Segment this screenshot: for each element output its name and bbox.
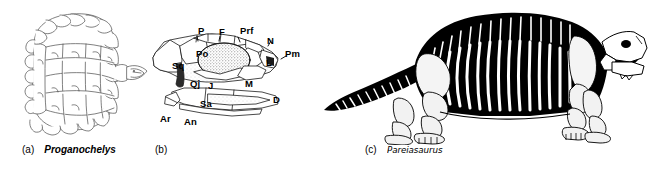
skull-label-sq: Sq (172, 61, 184, 71)
skull-label-ar: Ar (160, 114, 171, 124)
caption-a-tag: (a) (22, 144, 34, 155)
panel-a-proganochelys (0, 0, 150, 145)
caption-c: (c)Pareiasaurus (365, 145, 447, 155)
skull-label-n: N (267, 36, 274, 46)
skull-label-f: F (219, 27, 225, 37)
caption-b: (b) (155, 145, 167, 155)
caption-a: (a)Proganochelys (22, 145, 116, 155)
caption-c-tag: (c) (365, 144, 377, 155)
skull-label-p: P (198, 26, 204, 36)
skull-label-an: An (184, 117, 197, 127)
panel-b-skull: P F Prf N Pm Sq Po L Qj J M Sa D Ar An (150, 0, 325, 145)
skull-label-prf: Prf (240, 26, 254, 36)
scientific-figure: P F Prf N Pm Sq Po L Qj J M Sa D Ar An (0, 0, 649, 172)
panel-c-pareiasaurus (320, 0, 649, 145)
skull-label-d: D (273, 95, 280, 105)
skull-label-qj: Qj (190, 79, 200, 89)
skull-label-l: L (266, 58, 272, 68)
pareiasaurus-skeleton-drawing (320, 0, 649, 145)
proganochelys-carapace-drawing (0, 0, 150, 145)
caption-c-taxon: Pareiasaurus (387, 145, 442, 155)
caption-b-tag: (b) (155, 144, 167, 155)
skull-lateral-drawing (150, 0, 325, 145)
skull-label-sa: Sa (200, 99, 212, 109)
skull-label-m: M (245, 79, 253, 89)
skull-label-j: J (208, 81, 213, 91)
skull-label-po: Po (196, 49, 208, 59)
skull-label-pm: Pm (285, 49, 300, 59)
caption-a-taxon: Proganochelys (44, 144, 116, 155)
